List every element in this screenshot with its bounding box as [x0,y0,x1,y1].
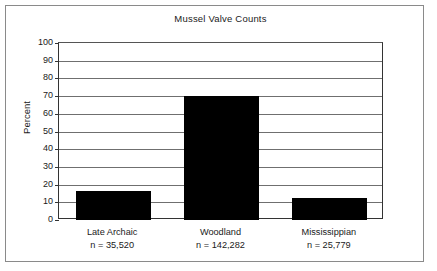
y-axis-tick [55,132,59,133]
bar [184,96,259,220]
x-axis-category: Mississippiann = 25,779 [275,226,383,252]
y-axis-tick-label: 100 [21,37,53,47]
y-axis-tick-label: 60 [21,108,53,118]
figure-canvas: Mussel Valve Counts Percent 010203040506… [0,0,437,271]
y-axis-tick-label: 50 [21,126,53,136]
y-axis-tick [55,61,59,62]
x-axis-category-name: Mississippian [275,226,383,239]
chart-title: Mussel Valve Counts [58,13,383,24]
x-axis-category-sample-size: n = 25,779 [275,239,383,252]
x-axis-category: Woodlandn = 142,282 [166,226,274,252]
y-axis-tick-label: 30 [21,161,53,171]
y-axis-tick-label: 70 [21,90,53,100]
y-axis-tick [55,185,59,186]
y-axis-tick-label: 20 [21,179,53,189]
y-axis-tick [55,167,59,168]
y-axis-tick [55,78,59,79]
gridline [59,78,382,79]
y-axis-tick-label: 0 [21,214,53,224]
y-axis-tick [55,220,59,221]
y-axis-tick [55,202,59,203]
x-axis-category-sample-size: n = 35,520 [58,239,166,252]
x-axis-category-sample-size: n = 142,282 [166,239,274,252]
x-axis-category: Late Archaicn = 35,520 [58,226,166,252]
y-axis-tick [55,43,59,44]
bar [292,198,367,220]
gridline [59,61,382,62]
x-axis-category-name: Late Archaic [58,226,166,239]
y-axis-tick-label: 90 [21,55,53,65]
y-axis-tick-label: 40 [21,143,53,153]
plot-area: 0102030405060708090100 [58,42,383,219]
y-axis-tick [55,149,59,150]
y-axis-tick-label: 80 [21,72,53,82]
y-axis-tick [55,96,59,97]
y-axis-tick-label: 10 [21,196,53,206]
bar [76,191,151,220]
x-axis-category-name: Woodland [166,226,274,239]
y-axis-tick [55,114,59,115]
